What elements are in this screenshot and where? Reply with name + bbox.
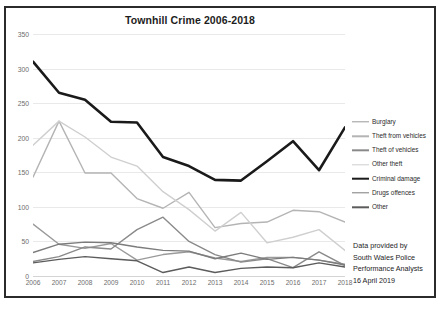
legend-item[interactable]: Drugs offences [352,186,448,200]
x-axis-tick-label: 2010 [130,279,145,286]
legend-item[interactable]: Theft of vehicles [352,143,448,157]
legend-label: Drugs offences [372,190,415,196]
legend-label: Burglary [372,119,396,125]
y-axis-tick-label: 50 [3,238,29,245]
source-note-line: Performance Analysts [353,263,448,275]
x-axis-tick-label: 2007 [52,279,67,286]
series-layer [33,34,345,276]
y-axis-tick-label: 300 [3,65,29,72]
legend-line-icon [352,174,369,184]
x-axis-tick-label: 2012 [182,279,197,286]
x-axis-tick-label: 2013 [208,279,223,286]
legend-item[interactable]: Other theft [352,158,448,172]
y-axis-tick-label: 350 [3,31,29,38]
line-chart: Townhill Crime 2006-2018 050100150200250… [0,0,448,310]
plot-area [33,34,345,276]
legend-line-icon [352,145,369,155]
x-axis-tick-label: 2016 [286,279,301,286]
legend-label: Other [372,204,388,210]
legend-line-icon [352,160,369,170]
y-axis-tick-label: 250 [3,100,29,107]
data-source-note: Data provided bySouth Wales PolicePerfor… [353,240,448,286]
chart-title: Townhill Crime 2006-2018 [40,14,340,26]
x-axis-tick-label: 2009 [104,279,119,286]
chart-screenshot: Townhill Crime 2006-2018 050100150200250… [0,0,448,310]
legend-label: Other theft [372,161,402,167]
y-axis-tick-label: 150 [3,169,29,176]
legend-label: Criminal damage [372,176,420,182]
legend-item[interactable]: Burglary [352,115,448,129]
legend-line-icon [352,117,369,127]
x-axis-tick-label: 2015 [260,279,275,286]
y-axis: 050100150200250300350 [0,34,29,276]
x-axis-tick-label: 2011 [156,279,170,286]
legend-line-icon [352,188,369,198]
legend-item[interactable]: Criminal damage [352,172,448,186]
x-axis-tick-label: 2006 [26,279,41,286]
x-axis-line [33,276,345,277]
legend-item[interactable]: Other [352,200,448,214]
legend-label: Theft of vehicles [372,147,419,153]
legend-line-icon [352,131,369,141]
x-axis-tick-label: 2017 [312,279,327,286]
x-axis-tick-label: 2014 [234,279,249,286]
series-line [33,121,345,250]
series-line [33,242,345,265]
y-axis-tick-label: 100 [3,203,29,210]
x-axis-tick-label: 2018 [338,279,353,286]
y-axis-tick-label: 200 [3,134,29,141]
legend-label: Theft from vehicles [372,133,426,139]
source-note-line: 16 April 2019 [353,275,448,287]
legend-item[interactable]: Theft from vehicles [352,129,448,143]
series-line [33,121,345,227]
x-axis: 2006200720082009201020112012201320142015… [33,279,345,293]
source-note-line: South Wales Police [353,252,448,264]
legend-line-icon [352,202,369,212]
legend: BurglaryTheft from vehiclesTheft of vehi… [352,115,448,214]
source-note-line: Data provided by [353,240,448,252]
x-axis-tick-label: 2008 [78,279,93,286]
